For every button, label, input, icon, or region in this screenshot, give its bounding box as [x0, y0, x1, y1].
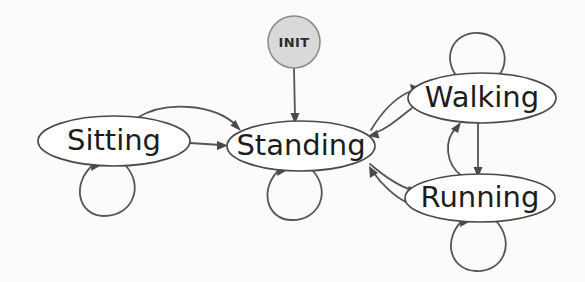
- node-walking-label: Walking: [425, 80, 539, 114]
- node-running-label: Running: [421, 180, 540, 214]
- edge-sitting-to-standing-line: [190, 141, 228, 150]
- node-init-label: INIT: [278, 35, 309, 50]
- node-sitting-label: Sitting: [67, 123, 161, 157]
- state-diagram-svg: INIT Sitting Standing Walking Running: [0, 0, 585, 282]
- edge-walking-to-running: [474, 122, 483, 178]
- edge-running-to-walking: [448, 122, 462, 176]
- node-walking[interactable]: Walking: [408, 73, 556, 123]
- edge-standing-self-loop: [267, 164, 321, 220]
- node-standing-label: Standing: [236, 128, 365, 162]
- edge-sitting-self-loop: [80, 159, 135, 216]
- state-diagram-canvas: INIT Sitting Standing Walking Running: [0, 0, 585, 282]
- edge-init-to-standing: [291, 68, 300, 124]
- node-init[interactable]: INIT: [268, 16, 320, 68]
- node-sitting[interactable]: Sitting: [38, 116, 190, 166]
- edge-running-self-loop: [451, 215, 506, 271]
- node-running[interactable]: Running: [405, 174, 555, 222]
- edge-running-to-standing: [369, 166, 410, 204]
- node-standing[interactable]: Standing: [227, 121, 375, 171]
